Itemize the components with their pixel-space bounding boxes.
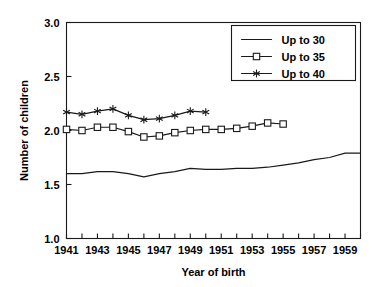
legend-label: Up to 35 bbox=[282, 51, 325, 63]
marker-square bbox=[249, 123, 255, 129]
y-tick-label: 2.0 bbox=[44, 125, 59, 137]
x-tick-label: 1949 bbox=[178, 244, 202, 256]
marker-square bbox=[280, 121, 286, 127]
x-tick-label: 1951 bbox=[209, 244, 233, 256]
x-tick-label: 1947 bbox=[147, 244, 171, 256]
marker-square bbox=[79, 127, 85, 133]
marker-square bbox=[187, 127, 193, 133]
x-axis-ticks bbox=[67, 234, 361, 239]
marker-square bbox=[141, 134, 147, 140]
x-tick-label: 1941 bbox=[54, 244, 78, 256]
marker-square bbox=[203, 126, 209, 132]
line-chart: 3.02.52.01.51.01941194319451947194919511… bbox=[0, 0, 375, 287]
marker-square bbox=[125, 128, 131, 134]
legend: Up to 30Up to 35Up to 40 bbox=[232, 26, 356, 81]
x-tick-label: 1945 bbox=[116, 244, 140, 256]
x-tick-label: 1955 bbox=[271, 244, 295, 256]
marker-star bbox=[125, 111, 132, 119]
x-tick-label: 1957 bbox=[302, 244, 326, 256]
series-up-to-40 bbox=[63, 105, 209, 124]
chart-figure: 3.02.52.01.51.01941194319451947194919511… bbox=[0, 0, 375, 287]
x-tick-label: 1943 bbox=[85, 244, 109, 256]
marker-square bbox=[253, 53, 259, 59]
y-tick-label: 2.5 bbox=[44, 71, 59, 83]
legend-label: Up to 40 bbox=[282, 68, 325, 80]
x-axis-title: Year of birth bbox=[181, 266, 245, 278]
y-axis-title: Number of children bbox=[18, 80, 30, 181]
series-line bbox=[67, 153, 361, 177]
series-line bbox=[67, 109, 206, 120]
marker-square bbox=[264, 120, 270, 126]
y-tick-label: 1.5 bbox=[44, 179, 59, 191]
marker-square bbox=[218, 126, 224, 132]
marker-square bbox=[63, 126, 69, 132]
legend-label: Up to 30 bbox=[282, 34, 325, 46]
marker-square bbox=[156, 133, 162, 139]
marker-square bbox=[110, 124, 116, 130]
marker-square bbox=[234, 125, 240, 131]
series-up-to-30 bbox=[67, 153, 361, 177]
x-tick-label: 1953 bbox=[240, 244, 264, 256]
marker-square bbox=[94, 124, 100, 130]
x-axis-labels: 1941194319451947194919511953195519571959 bbox=[54, 244, 357, 256]
series-up-to-35 bbox=[63, 120, 286, 140]
marker-square bbox=[172, 129, 178, 135]
x-tick-label: 1959 bbox=[333, 244, 357, 256]
y-tick-label: 3.0 bbox=[44, 17, 59, 29]
